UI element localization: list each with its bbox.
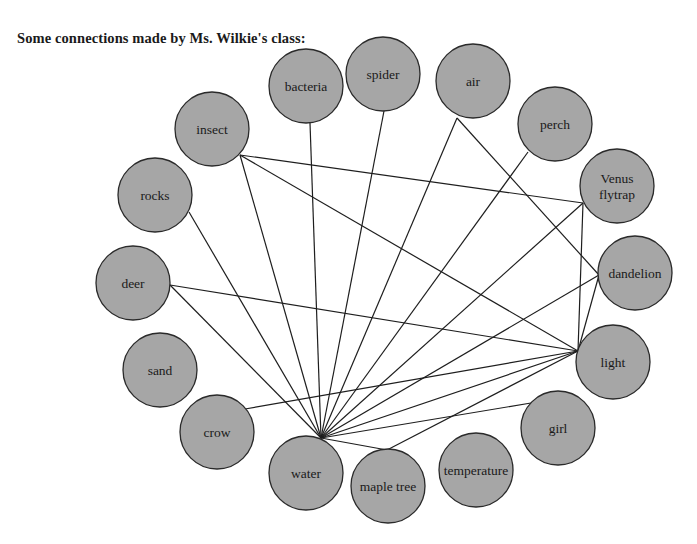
node-label: dandelion [608, 266, 661, 281]
node-label: bacteria [285, 79, 328, 94]
node-label: crow [204, 425, 231, 440]
node-dandelion: dandelion [598, 236, 672, 310]
node-maple-tree: maple tree [351, 449, 425, 523]
node-perch: perch [518, 87, 592, 161]
edge-bacteria-water [310, 123, 321, 438]
node-label: light [601, 355, 626, 370]
node-insect: insect [175, 92, 249, 166]
node-label: flytrap [599, 187, 635, 202]
node-rocks: rocks [118, 158, 192, 232]
node-label: girl [549, 421, 568, 436]
node-label: perch [540, 117, 570, 132]
node-label: air [466, 74, 481, 89]
node-bacteria: bacteria [269, 49, 343, 123]
node-temperature: temperature [439, 433, 513, 507]
node-deer: deer [96, 246, 170, 320]
edge-deer-light [170, 285, 578, 351]
edge-crow-light [245, 351, 578, 409]
edge-spider-water [321, 111, 384, 438]
node-circle [580, 149, 654, 223]
node-label: temperature [444, 463, 508, 478]
node-label: spider [367, 67, 400, 82]
node-light: light [576, 325, 650, 399]
node-label: maple tree [360, 479, 417, 494]
node-girl: girl [521, 391, 595, 465]
node-label: insect [196, 122, 228, 137]
edge-insect-venus-flytrap [240, 155, 583, 203]
node-sand: sand [123, 333, 197, 407]
node-label: sand [148, 363, 173, 378]
node-water: water [269, 436, 343, 510]
connection-web-diagram: bacteriaspiderairperchinsectVenusflytrap… [0, 0, 697, 544]
concept-nodes: bacteriaspiderairperchinsectVenusflytrap… [96, 37, 672, 523]
node-crow: crow [180, 395, 254, 469]
node-spider: spider [346, 37, 420, 111]
node-air: air [436, 44, 510, 118]
node-label: Venus [601, 171, 634, 186]
node-label: rocks [140, 188, 169, 203]
edge-insect-water [240, 155, 321, 438]
node-label: deer [121, 276, 145, 291]
node-label: water [291, 466, 321, 481]
edge-girl-water [321, 403, 531, 438]
edge-venus-flytrap-light [578, 203, 583, 351]
node-venus-flytrap: Venusflytrap [580, 149, 654, 223]
